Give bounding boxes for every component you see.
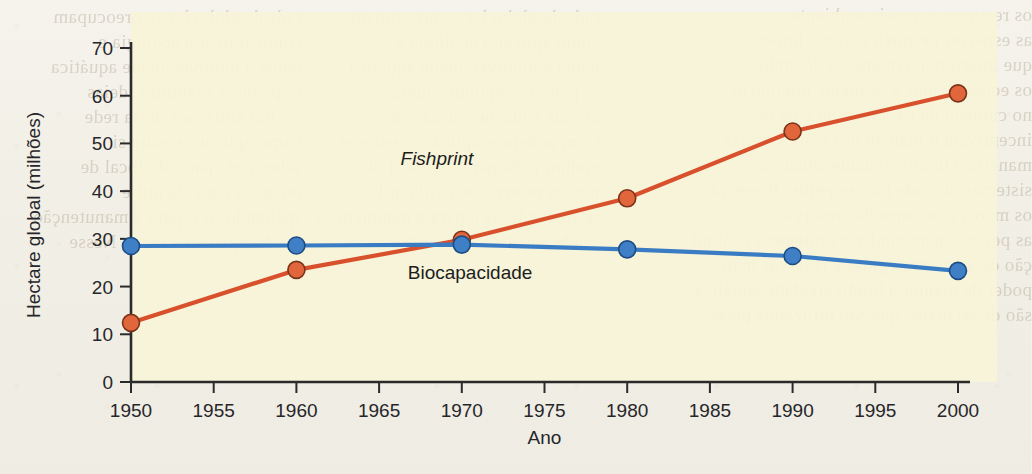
y-axis-ticks: 010203040506070 — [92, 38, 131, 393]
series-labels: FishprintBiocapacidade — [401, 148, 533, 284]
x-axis-ticks: 1950195519601965197019751980198519901995… — [110, 382, 979, 421]
data-point-marker — [123, 238, 140, 255]
x-tick-label: 1960 — [275, 400, 317, 421]
data-point-marker — [950, 262, 967, 279]
data-point-marker — [288, 237, 305, 254]
data-point-marker — [784, 248, 801, 265]
data-series — [123, 85, 967, 332]
x-tick-label: 2000 — [937, 400, 979, 421]
x-tick-label: 1985 — [689, 400, 731, 421]
y-tick-label: 20 — [92, 277, 113, 298]
x-tick-label: 1950 — [110, 400, 152, 421]
x-tick-label: 1990 — [771, 400, 813, 421]
series-line — [131, 245, 958, 271]
data-point-marker — [619, 241, 636, 258]
x-tick-label: 1980 — [606, 400, 648, 421]
y-tick-label: 60 — [92, 86, 113, 107]
x-tick-label: 1995 — [854, 400, 896, 421]
y-tick-label: 50 — [92, 133, 113, 154]
data-point-marker — [288, 261, 305, 278]
x-tick-label: 1965 — [358, 400, 400, 421]
series-line — [131, 93, 958, 322]
y-tick-label: 40 — [92, 181, 113, 202]
data-point-marker — [453, 236, 470, 253]
y-tick-label: 10 — [92, 324, 113, 345]
y-tick-label: 70 — [92, 38, 113, 59]
series-annotation-label: Fishprint — [401, 148, 475, 169]
y-axis-title: Hectare global (milhões) — [23, 112, 44, 318]
data-point-marker — [619, 190, 636, 207]
x-axis-title: Ano — [528, 427, 562, 448]
data-point-marker — [950, 85, 967, 102]
series-annotation-label: Biocapacidade — [408, 262, 533, 283]
axis-lines — [131, 42, 970, 382]
x-tick-label: 1955 — [193, 400, 235, 421]
data-point-marker — [123, 314, 140, 331]
data-point-marker — [784, 123, 801, 140]
y-tick-label: 30 — [92, 229, 113, 250]
x-tick-label: 1975 — [523, 400, 565, 421]
y-tick-label: 0 — [102, 372, 113, 393]
x-tick-label: 1970 — [441, 400, 483, 421]
